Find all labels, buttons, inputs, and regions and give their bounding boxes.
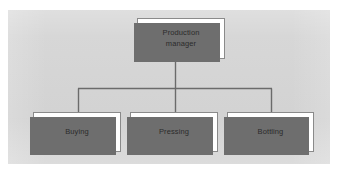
node-buying-label: Buying	[61, 127, 93, 138]
node-pressing-label: Pressing	[155, 127, 193, 138]
node-bottling-label: Bottling	[254, 127, 288, 138]
organisation-chart-figure: Production manager Buying Pressing Bottl…	[0, 0, 339, 175]
node-bottling: Bottling	[227, 112, 314, 152]
node-buying: Buying	[33, 112, 121, 152]
node-production-manager-line1: Production	[163, 28, 200, 37]
node-production-manager-label: Production manager	[159, 28, 204, 50]
node-production-manager-line2: manager	[166, 39, 196, 48]
node-production-manager: Production manager	[137, 18, 225, 59]
node-pressing: Pressing	[130, 112, 218, 152]
